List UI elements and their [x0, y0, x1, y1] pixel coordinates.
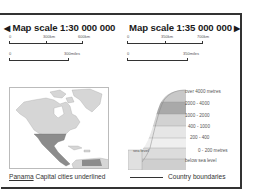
capital-note-text: Capital cities underlined: [35, 173, 105, 180]
legend-band: 0 - 200 metres: [198, 148, 228, 153]
capital-example: Panama: [9, 173, 34, 180]
left-scale-title-text: Map scale 1:30 000 000: [12, 22, 115, 33]
legend-band: 400 - 1000: [188, 124, 210, 129]
left-scale-title: ◀ Map scale 1:30 000 000: [4, 22, 115, 33]
mid-tick: [165, 41, 166, 44]
legend-band: 2000 - 4000: [185, 101, 210, 106]
boundary-note: Country boundaries: [168, 173, 226, 180]
tick-label: 700km: [197, 34, 209, 39]
mid-tick: [46, 41, 47, 44]
legend-band: below sea level: [185, 158, 216, 163]
panel-edge: [0, 13, 4, 15]
tick-label: 300miles: [64, 51, 80, 56]
capital-note: Panama Capital cities underlined: [9, 173, 105, 180]
tick-label: 0: [127, 34, 129, 39]
mile-bar: [127, 58, 188, 61]
left-arrow-icon: ◀: [4, 24, 10, 33]
legend-band: over 4000 metres: [185, 89, 221, 94]
legend-band: 200 - 400: [190, 135, 209, 140]
locator-map: [9, 87, 109, 169]
right-scale-title-text: Map scale 1:35 000 000: [129, 22, 232, 33]
tick-label: 300km: [43, 34, 55, 39]
tick-label: 600km: [78, 34, 90, 39]
tick-label: 350miles: [183, 51, 199, 56]
right-arrow-icon: ▶: [234, 24, 240, 33]
mile-bar: [9, 58, 69, 61]
elevation-profile-graphic: [128, 88, 186, 170]
north-america-map-icon: [10, 88, 109, 169]
tick-label: 0: [127, 51, 129, 56]
tick-label: 0: [9, 51, 11, 56]
legend-band: 1000 - 2000: [185, 113, 210, 118]
tick-label: 0: [9, 34, 11, 39]
sea-level-label: sea level: [133, 148, 149, 153]
country-boundary-line-icon: [130, 177, 163, 178]
tick-label: 350km: [161, 34, 173, 39]
right-scale-title: Map scale 1:35 000 000 ▶: [129, 22, 240, 33]
